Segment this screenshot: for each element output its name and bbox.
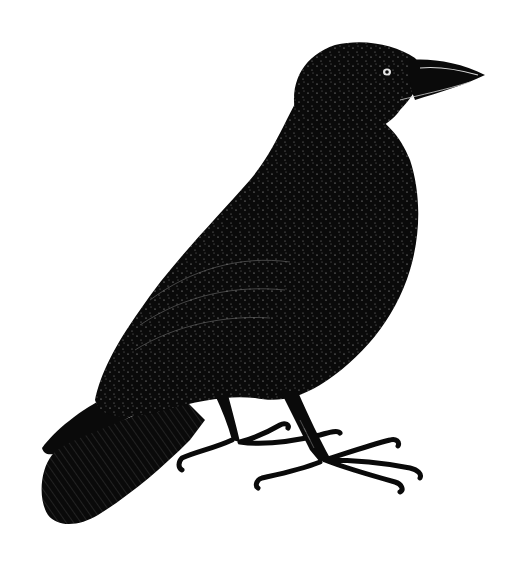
crow-head: [294, 42, 425, 132]
crow-eye: [383, 69, 391, 76]
crow-illustration: [0, 0, 528, 566]
illustration-canvas: Engraved illustration of a crow standing…: [0, 0, 528, 566]
crow-body: [95, 94, 418, 416]
